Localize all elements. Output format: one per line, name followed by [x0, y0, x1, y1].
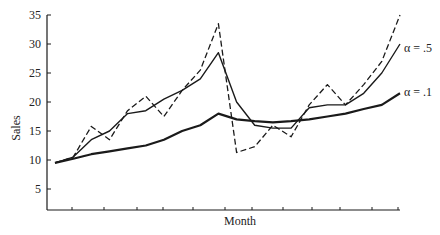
smoothing-line-chart: 5101520253035 Month Sales α = .5 α = .1: [0, 0, 440, 235]
y-tick-label: 5: [35, 182, 41, 196]
label-alpha-half: α = .5: [404, 41, 432, 55]
series-line-actual: [55, 15, 400, 163]
y-tick-label: 25: [29, 66, 41, 80]
y-tick-label: 10: [29, 153, 41, 167]
y-axis-ticks: 5101520253035: [29, 8, 51, 196]
y-tick-label: 15: [29, 124, 41, 138]
y-tick-label: 35: [29, 8, 41, 22]
label-alpha-tenth: α = .1: [404, 85, 432, 99]
y-tick-label: 20: [29, 95, 41, 109]
series-lines: [55, 15, 400, 163]
y-axis-label: Sales: [9, 115, 23, 141]
y-tick-label: 30: [29, 37, 41, 51]
series-line-alpha-half: [55, 44, 400, 163]
x-axis-label: Month: [224, 214, 256, 228]
